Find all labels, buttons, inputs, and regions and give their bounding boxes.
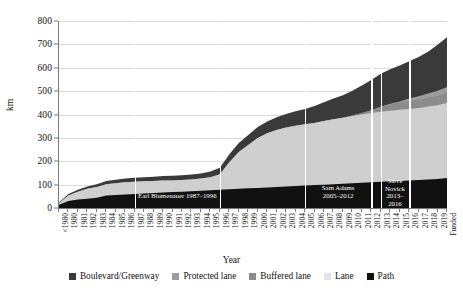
x-tick-label: 1998: [241, 213, 250, 228]
x-tick-mark: [351, 208, 352, 212]
x-tick-label: <1980: [61, 213, 70, 232]
x-tick-label: 2014: [392, 213, 401, 228]
x-tick-mark: [228, 208, 229, 212]
x-tick-mark: [58, 208, 59, 212]
annotation-vline: [305, 21, 306, 208]
x-tick-mark: [96, 208, 97, 212]
x-tick-label: 2009: [345, 213, 354, 228]
x-tick-mark: [238, 208, 239, 212]
x-tick-mark: [124, 208, 125, 212]
x-tick-label: 2018: [430, 213, 439, 228]
x-tick-label: 1985: [118, 213, 127, 228]
x-tick-mark: [304, 208, 305, 212]
legend-swatch-icon: [69, 273, 76, 280]
x-tick-mark: [219, 208, 220, 212]
y-tick-label: 0: [47, 203, 52, 213]
x-tick-label: 2004: [298, 213, 307, 228]
x-tick-mark: [200, 208, 201, 212]
x-tick-mark: [370, 208, 371, 212]
x-axis-labels: <198019801981198219831984198519861987198…: [58, 213, 446, 257]
chart-figure: km 0100200300400500600700800 Earl Blumen…: [0, 0, 463, 299]
x-tick-mark: [361, 208, 362, 212]
x-tick-label: 1980: [70, 213, 79, 228]
x-tick-mark: [190, 208, 191, 212]
x-tick-label: 2005: [307, 213, 316, 228]
x-tick-mark: [399, 208, 400, 212]
x-tick-label: 1984: [108, 213, 117, 228]
annotation-vline: [409, 21, 410, 208]
x-tick-mark: [323, 208, 324, 212]
x-axis-title: Year: [0, 255, 463, 265]
annotation-vline: [371, 21, 372, 208]
x-tick-label: 1999: [250, 213, 259, 228]
x-tick-label: 1996: [222, 213, 231, 228]
plot-area: Earl Blumenauer 1987–1996Sam Adams 2005–…: [58, 21, 447, 209]
legend-swatch-icon: [172, 273, 179, 280]
legend-swatch-icon: [367, 273, 374, 280]
legend-item: Lane: [324, 271, 354, 281]
x-tick-label: 2006: [317, 213, 326, 228]
x-tick-label: 2008: [335, 213, 344, 228]
y-tick-label: 800: [37, 16, 52, 26]
x-tick-label: 1990: [165, 213, 174, 228]
x-tick-mark: [295, 208, 296, 212]
x-tick-mark: [181, 208, 182, 212]
x-tick-mark: [67, 208, 68, 212]
annotation-label: Steve Novick 2013–2016: [381, 177, 409, 207]
legend-item: Protected lane: [172, 271, 236, 281]
y-tick-label: 100: [37, 180, 52, 190]
x-tick-label: 2011: [364, 213, 373, 228]
x-tick-mark: [437, 208, 438, 212]
annotation-label: Sam Adams 2005–2012: [305, 184, 371, 199]
x-tick-label: 1992: [184, 213, 193, 228]
x-tick-mark: [266, 208, 267, 212]
x-tick-label: 2001: [269, 213, 278, 228]
x-tick-label: 1983: [99, 213, 108, 228]
legend-item: Buffered lane: [249, 271, 311, 281]
x-tick-mark: [446, 208, 447, 212]
x-tick-mark: [143, 208, 144, 212]
legend-swatch-icon: [249, 273, 256, 280]
x-tick-label: 2010: [354, 213, 363, 228]
x-tick-label: 2000: [260, 213, 269, 228]
x-tick-label: 2019: [440, 213, 449, 228]
legend-label: Boulevard/Greenway: [80, 271, 160, 281]
x-tick-mark: [418, 208, 419, 212]
x-tick-mark: [153, 208, 154, 212]
x-tick-mark: [247, 208, 248, 212]
x-tick-label: 1995: [212, 213, 221, 228]
x-tick-label: 1986: [127, 213, 136, 228]
x-tick-label: 1982: [89, 213, 98, 228]
x-tick-mark: [172, 208, 173, 212]
x-tick-mark: [86, 208, 87, 212]
x-tick-mark: [276, 208, 277, 212]
x-tick-mark: [105, 208, 106, 212]
x-tick-mark: [380, 208, 381, 212]
x-tick-mark: [209, 208, 210, 212]
x-tick-label: 1997: [231, 213, 240, 228]
x-tick-label: 2013: [383, 213, 392, 228]
x-tick-label: 2003: [288, 213, 297, 228]
x-tick-label: 2007: [326, 213, 335, 228]
annotation-label: Earl Blumenauer 1987–1996: [135, 192, 220, 200]
x-tick-mark: [257, 208, 258, 212]
y-axis-ticks: 0100200300400500600700800: [0, 0, 58, 212]
x-tick-mark: [314, 208, 315, 212]
x-tick-mark: [162, 208, 163, 212]
x-tick-mark: [332, 208, 333, 212]
x-tick-label: 2002: [279, 213, 288, 228]
x-tick-label: 1993: [193, 213, 202, 228]
y-tick-label: 500: [37, 86, 52, 96]
annotation-vline: [135, 21, 136, 208]
annotation-vline: [220, 21, 221, 208]
x-tick-label: 1994: [203, 213, 212, 228]
legend-item: Boulevard/Greenway: [69, 271, 160, 281]
legend-label: Buffered lane: [260, 271, 311, 281]
x-tick-label: Funded: [449, 213, 458, 236]
x-tick-label: 1981: [80, 213, 89, 228]
x-tick-mark: [427, 208, 428, 212]
x-tick-mark: [285, 208, 286, 212]
legend-label: Lane: [335, 271, 354, 281]
x-tick-mark: [134, 208, 135, 212]
legend-item: Path: [367, 271, 395, 281]
